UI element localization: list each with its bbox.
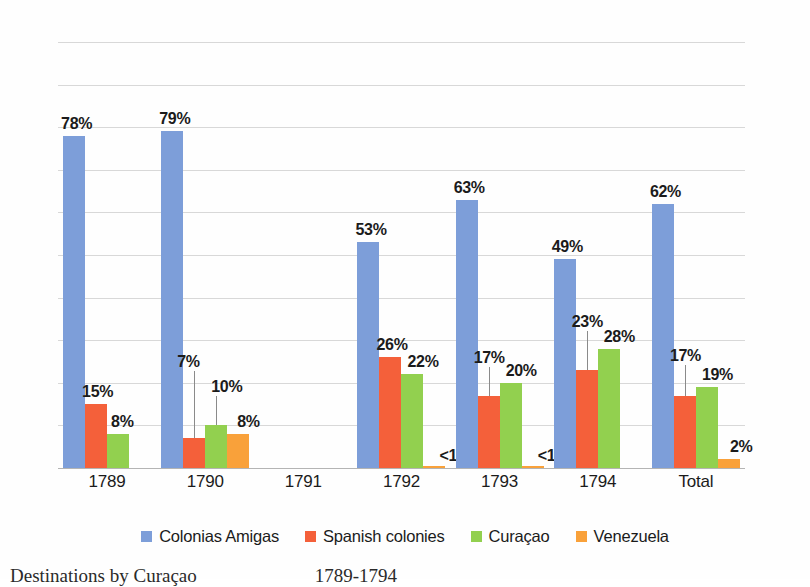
bar-slot	[379, 42, 401, 468]
axis-line-zero	[58, 468, 745, 469]
caption-text: Destinations by Curaçao	[10, 565, 197, 586]
legend-item[interactable]: Curaçao	[471, 527, 550, 546]
bar-slot	[129, 42, 151, 468]
bar-venezuela[interactable]	[718, 459, 740, 468]
bar-slot	[696, 42, 718, 468]
bar-venezuela[interactable]	[522, 466, 544, 468]
bar-slot	[620, 42, 642, 468]
bar-value-label: 10%	[211, 379, 242, 395]
bar-group-bars	[58, 42, 156, 468]
bar-group: 63%17%20%<1%	[451, 42, 549, 468]
bar-cura-ao[interactable]	[696, 387, 718, 468]
bar-slot	[227, 42, 249, 468]
caption-range: 1789-1794	[315, 565, 397, 586]
bar-group: 79%7%10%8%	[156, 42, 254, 468]
bar-slot	[652, 42, 674, 468]
bar-value-label: 26%	[376, 337, 407, 353]
bar-value-label: 78%	[61, 116, 92, 132]
bar-slot	[401, 42, 423, 468]
x-axis-category-label: 1789	[58, 472, 156, 492]
legend-label: Venezuela	[594, 527, 669, 546]
bar-slot	[259, 42, 281, 468]
bar-group: 62%17%19%2%	[647, 42, 745, 468]
bar-cura-ao[interactable]	[401, 374, 423, 468]
figure-caption: Destinations by Curaçao1789-1794	[10, 565, 800, 587]
bar-venezuela[interactable]	[227, 434, 249, 468]
label-leader-line	[685, 365, 686, 396]
bar-slot	[63, 42, 85, 468]
label-leader-line	[587, 331, 588, 370]
bar-value-label: 8%	[111, 414, 134, 430]
legend-swatch-icon	[141, 531, 152, 542]
bar-spanish-colonies[interactable]	[379, 357, 401, 468]
bar-slot	[500, 42, 522, 468]
x-axis-category-label: 1791	[254, 472, 352, 492]
legend-item[interactable]: Spanish colonies	[305, 527, 445, 546]
bar-value-label: 23%	[572, 314, 603, 330]
bar-slot	[107, 42, 129, 468]
bar-slot	[161, 42, 183, 468]
bar-cura-ao[interactable]	[500, 383, 522, 468]
bar-value-label: 20%	[506, 363, 537, 379]
bar-colonias-amigas[interactable]	[652, 204, 674, 468]
bar-cura-ao[interactable]	[598, 349, 620, 468]
bar-group-bars	[352, 42, 450, 468]
x-axis-category-label: 1792	[352, 472, 450, 492]
bar-spanish-colonies[interactable]	[85, 404, 107, 468]
bar-venezuela[interactable]	[423, 466, 445, 468]
bar-value-label: 22%	[407, 354, 438, 370]
chart-legend: Colonias AmigasSpanish coloniesCuraçaoVe…	[0, 527, 810, 546]
bar-spanish-colonies[interactable]	[183, 438, 205, 468]
x-axis-category-label: 1790	[156, 472, 254, 492]
bar-group-bars	[254, 42, 352, 468]
bar-colonias-amigas[interactable]	[63, 136, 85, 468]
bar-slot	[522, 42, 544, 468]
bar-spanish-colonies[interactable]	[576, 370, 598, 468]
label-leader-line	[216, 396, 217, 425]
bar-value-label: 79%	[159, 111, 190, 127]
legend-label: Curaçao	[489, 527, 550, 546]
bar-group-bars	[156, 42, 254, 468]
bar-group: 78%15%8%	[58, 42, 156, 468]
bar-group-bars	[451, 42, 549, 468]
legend-label: Colonias Amigas	[159, 527, 279, 546]
bar-slot	[423, 42, 445, 468]
bar-colonias-amigas[interactable]	[357, 242, 379, 468]
legend-swatch-icon	[471, 531, 482, 542]
x-axis-category-label: 1794	[549, 472, 647, 492]
bar-value-label: 19%	[702, 367, 733, 383]
bar-slot	[357, 42, 379, 468]
bar-spanish-colonies[interactable]	[674, 396, 696, 468]
bar-slot	[85, 42, 107, 468]
bar-value-label: 62%	[650, 184, 681, 200]
bar-slot	[281, 42, 303, 468]
bar-slot	[456, 42, 478, 468]
label-leader-line	[194, 371, 195, 438]
legend-swatch-icon	[576, 531, 587, 542]
bar-slot	[718, 42, 740, 468]
bar-group	[254, 42, 352, 468]
bar-slot	[325, 42, 347, 468]
bar-slot	[478, 42, 500, 468]
bar-spanish-colonies[interactable]	[478, 396, 500, 468]
legend-item[interactable]: Venezuela	[576, 527, 669, 546]
legend-item[interactable]: Colonias Amigas	[141, 527, 279, 546]
bar-value-label: 17%	[474, 350, 505, 366]
bar-colonias-amigas[interactable]	[161, 131, 183, 468]
bar-slot	[674, 42, 696, 468]
bar-groups: 78%15%8%79%7%10%8%53%26%22%<1%63%17%20%<…	[58, 42, 745, 468]
x-axis-category-label: Total	[647, 472, 745, 492]
bar-value-label: 17%	[670, 348, 701, 364]
bar-group: 53%26%22%<1%	[352, 42, 450, 468]
legend-swatch-icon	[305, 531, 316, 542]
bar-slot	[303, 42, 325, 468]
bar-value-label: 2%	[730, 439, 753, 455]
bar-value-label: 7%	[177, 354, 200, 370]
bar-value-label: 15%	[82, 384, 113, 400]
bar-cura-ao[interactable]	[107, 434, 129, 468]
bar-cura-ao[interactable]	[205, 425, 227, 468]
bar-group: 49%23%28%	[549, 42, 647, 468]
bar-colonias-amigas[interactable]	[554, 259, 576, 468]
bar-colonias-amigas[interactable]	[456, 200, 478, 468]
